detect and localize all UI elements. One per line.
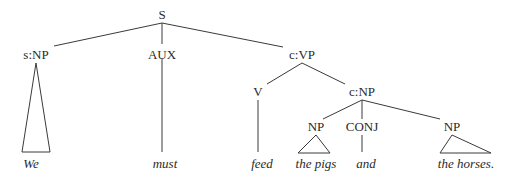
edge-vp-v	[267, 63, 302, 84]
node-aux: AUX	[148, 47, 177, 62]
word-must: must	[153, 156, 178, 171]
edge-np-np1	[323, 100, 362, 119]
node-np1: NP	[308, 119, 325, 134]
edge-s-subject	[54, 23, 162, 46]
tree-canvas: S s:NP AUX c:VP V c:NP NP CONJ NP We mus…	[0, 0, 515, 177]
syntax-tree-diagram: S s:NP AUX c:VP V c:NP NP CONJ NP We mus…	[0, 0, 515, 177]
node-verb: V	[253, 84, 263, 99]
word-and: and	[356, 156, 376, 171]
edge-vp-np	[302, 63, 345, 84]
word-we: We	[23, 156, 39, 171]
triangle-subject	[22, 63, 50, 152]
node-vp: c:VP	[289, 47, 315, 62]
node-s: S	[158, 7, 165, 22]
node-object-np: c:NP	[349, 84, 375, 99]
node-subject-np: s:NP	[23, 47, 48, 62]
tree-nodes: S s:NP AUX c:VP V c:NP NP CONJ NP	[23, 7, 460, 134]
triangle-np2	[440, 135, 491, 153]
word-the-pigs: the pigs	[296, 156, 337, 171]
word-feed: feed	[251, 156, 273, 171]
triangle-np1	[298, 135, 330, 153]
edge-s-vp	[162, 23, 283, 47]
node-np2: NP	[444, 119, 461, 134]
edge-np-np2	[362, 100, 440, 119]
word-the-horses: the horses.	[438, 156, 494, 171]
node-conj: CONJ	[346, 119, 379, 134]
tree-words: We must feed the pigs and the horses.	[23, 156, 494, 171]
